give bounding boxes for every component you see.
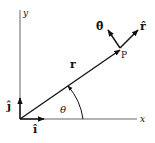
r-hat-label: r̂ — [140, 20, 146, 33]
polar-coordinates-diagram: y x î ĵ r P θ r̂ θ̂ — [0, 0, 155, 143]
y-axis-label: y — [22, 8, 29, 18]
theta-hat-label: θ̂ — [96, 20, 103, 33]
r-label: r — [70, 58, 76, 71]
r-hat-arrow — [120, 30, 138, 48]
point-p-label: P — [121, 50, 127, 60]
theta-arc — [68, 86, 83, 119]
j-hat-label: ĵ — [6, 100, 11, 113]
theta-hat-arrow — [108, 30, 120, 48]
i-hat-label: î — [33, 123, 38, 136]
x-axis-label: x — [140, 114, 145, 124]
theta-label: θ — [60, 104, 66, 115]
